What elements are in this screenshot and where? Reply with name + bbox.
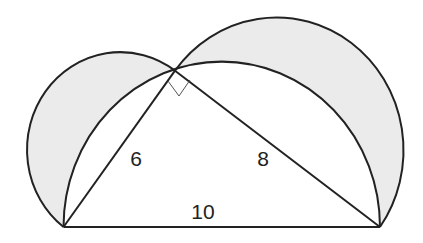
lune-diagram: 6 8 10 (0, 0, 423, 243)
label-leg-left: 6 (130, 147, 142, 170)
label-leg-right: 8 (257, 147, 269, 170)
label-hypotenuse: 10 (191, 200, 214, 223)
